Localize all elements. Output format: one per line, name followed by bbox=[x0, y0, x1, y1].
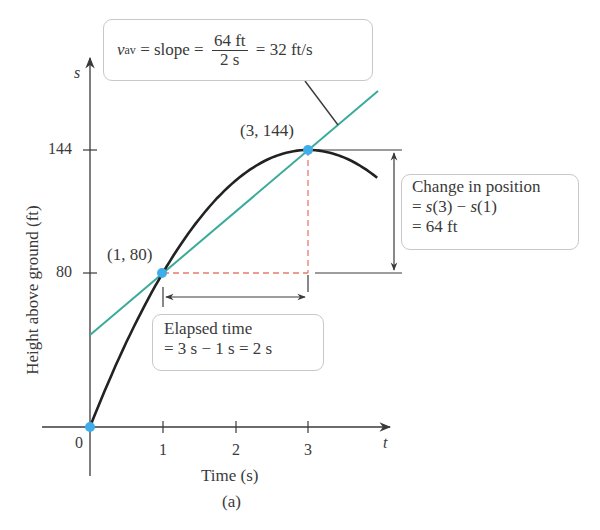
slope-leader-line bbox=[305, 81, 338, 125]
slope-fraction: 64 ft 2 s bbox=[212, 32, 248, 69]
x-axis-title: Time (s) bbox=[201, 466, 258, 486]
secant-line bbox=[90, 91, 378, 335]
position-line1: Change in position bbox=[412, 177, 578, 197]
x-tick-label-1: 1 bbox=[159, 441, 167, 459]
point-origin bbox=[85, 422, 95, 432]
elapsed-line1: Elapsed time bbox=[164, 319, 323, 339]
slope-numerator: 64 ft bbox=[212, 32, 248, 51]
figure-caption: (a) bbox=[222, 492, 241, 512]
x-tick-label-3: 3 bbox=[304, 441, 312, 459]
elapsed-line2: = 3 s − 1 s = 2 s bbox=[164, 339, 323, 359]
x-tick-label-2: 2 bbox=[232, 441, 240, 459]
y-tick-label-80: 80 bbox=[56, 263, 72, 281]
position-annotation-box: Change in position = s(3) − s(1) = 64 ft bbox=[401, 174, 579, 250]
y-axis-variable: s bbox=[74, 64, 80, 82]
slope-eq2: = 32 ft/s bbox=[252, 40, 313, 60]
position-line2: = s(3) − s(1) bbox=[412, 197, 578, 217]
position-curve bbox=[90, 150, 377, 427]
point-1-80 bbox=[157, 268, 167, 278]
x-tick-label-0: 0 bbox=[75, 434, 83, 452]
y-tick-label-144: 144 bbox=[48, 140, 72, 158]
point-label-1-80: (1, 80) bbox=[107, 245, 152, 265]
point-label-3-144: (3, 144) bbox=[240, 121, 294, 141]
slope-sub: av bbox=[125, 40, 136, 60]
point-3-144 bbox=[303, 145, 313, 155]
position-line3: = 64 ft bbox=[412, 217, 578, 237]
slope-annotation-box: vav = slope = 64 ft 2 s = 32 ft/s bbox=[103, 19, 373, 81]
elapsed-annotation-box: Elapsed time = 3 s − 1 s = 2 s bbox=[152, 314, 324, 371]
slope-denominator: 2 s bbox=[220, 51, 239, 69]
y-axis-title: Height above ground (ft) bbox=[23, 205, 43, 374]
x-axis-variable: t bbox=[383, 434, 387, 452]
slope-eq1: = slope = bbox=[136, 40, 208, 60]
slope-v: v bbox=[117, 40, 125, 60]
